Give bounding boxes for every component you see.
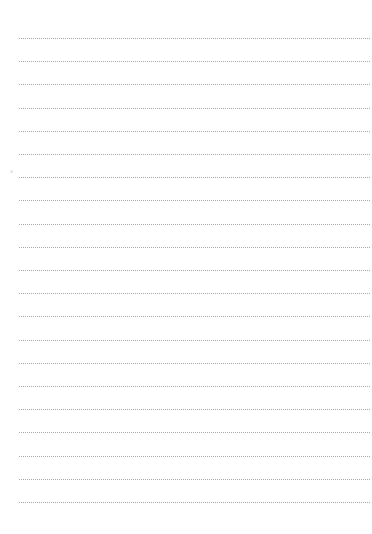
ruled-line <box>19 409 370 410</box>
ruled-line <box>19 224 370 225</box>
ruled-line <box>19 316 370 317</box>
ruled-line <box>19 61 370 62</box>
ruled-line <box>19 84 370 85</box>
ruled-line <box>19 177 370 178</box>
ruled-line <box>19 131 370 132</box>
ruled-line <box>19 270 370 271</box>
ruled-line <box>19 200 370 201</box>
ruled-line <box>19 154 370 155</box>
ruled-line <box>19 108 370 109</box>
ruled-line <box>19 432 370 433</box>
ruled-line <box>19 293 370 294</box>
ruled-line <box>19 479 370 480</box>
ruled-line <box>19 386 370 387</box>
ruled-line <box>19 38 370 39</box>
lined-paper-page <box>0 0 372 534</box>
ruled-line <box>19 456 370 457</box>
ruled-line <box>19 502 370 503</box>
ruled-line <box>19 247 370 248</box>
ruled-line <box>19 340 370 341</box>
ruled-line <box>19 363 370 364</box>
paper-mark <box>10 170 13 173</box>
